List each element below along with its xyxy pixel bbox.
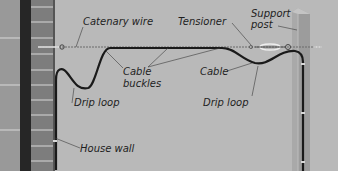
label-cable: Cable	[200, 66, 228, 77]
wall-clip	[53, 140, 57, 142]
label-support-post-line2: post	[251, 19, 273, 30]
label-house-wall: House wall	[80, 143, 134, 154]
label-drip-loop-right: Drip loop	[203, 97, 248, 108]
label-drip-loop-left: Drip loop	[74, 97, 119, 108]
house-wall	[0, 0, 55, 171]
label-tensioner: Tensioner	[178, 16, 226, 27]
cable-diagram-graphic	[0, 0, 338, 171]
label-support-post-line1: Support	[251, 8, 291, 19]
label-cable-buckles-line2: buckles	[123, 78, 161, 89]
support-post	[292, 8, 310, 171]
diagram-canvas: Catenary wire Tensioner Support post Cab…	[0, 0, 338, 171]
label-cable-buckles-line1: Cable	[123, 66, 151, 77]
label-catenary-wire: Catenary wire	[83, 16, 153, 27]
